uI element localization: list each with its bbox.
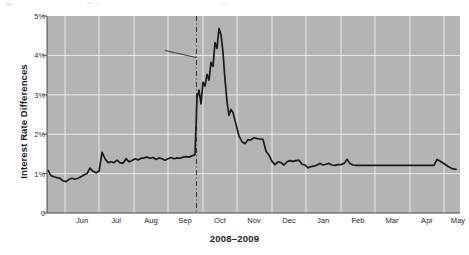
chart-canvas [0,0,469,255]
axis-tick-marks [44,16,48,213]
plot-background [47,16,460,213]
chart-figure: Interest Rate Differences 5% 4% 3% 2% 1%… [0,0,469,255]
